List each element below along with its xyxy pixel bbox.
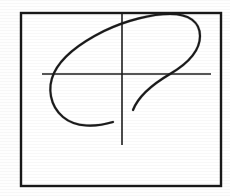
plot-svg xyxy=(0,0,230,196)
figure-container: Scanned plot: open loop trace with cross… xyxy=(0,0,230,196)
